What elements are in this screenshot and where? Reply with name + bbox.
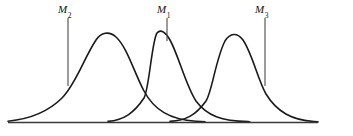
- curve-label-m2-base: M: [58, 3, 67, 15]
- curve-label-m2: M2: [58, 4, 71, 18]
- distribution-curves-svg: [0, 0, 353, 136]
- curve-label-m1-subscript: 1: [167, 11, 171, 20]
- distribution-figure: M2 M1 M3: [0, 0, 353, 136]
- curve-m1: [108, 31, 250, 122]
- curve-label-m1: M1: [157, 4, 170, 18]
- curve-label-m1-base: M: [157, 3, 166, 15]
- curve-label-m3: M3: [255, 4, 268, 18]
- curve-label-m3-subscript: 3: [265, 11, 269, 20]
- curve-group: [8, 31, 318, 122]
- curve-m3: [170, 34, 318, 121]
- curve-label-m2-subscript: 2: [68, 11, 72, 20]
- leader-line-group: [68, 18, 265, 86]
- curve-m2: [8, 33, 205, 122]
- curve-label-m3-base: M: [255, 3, 264, 15]
